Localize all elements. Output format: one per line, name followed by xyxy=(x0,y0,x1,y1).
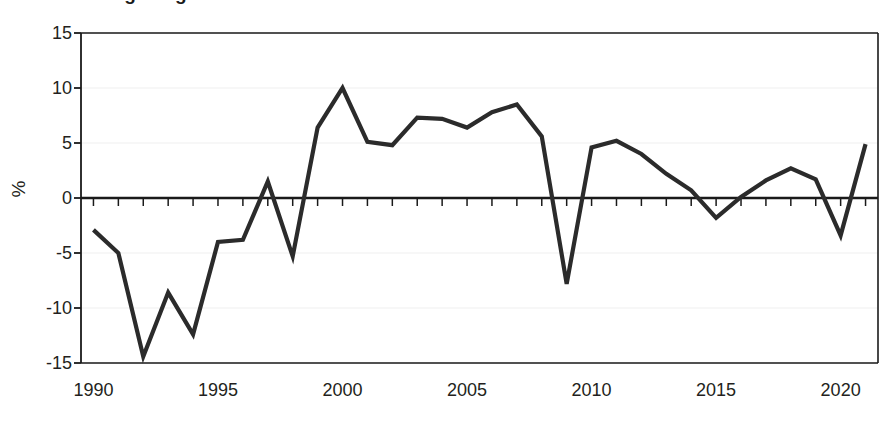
plot-area xyxy=(0,0,892,421)
chart-figure: Annual change in gross value added % 151… xyxy=(0,0,892,421)
data-line-annual-change xyxy=(93,88,865,356)
